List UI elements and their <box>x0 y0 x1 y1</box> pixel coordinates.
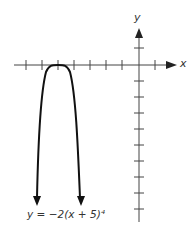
equation-label: y = −2(x + 5)⁴ <box>27 208 105 220</box>
curve-left-arrow-icon <box>33 196 41 206</box>
x-axis-label: x <box>180 57 187 70</box>
y-axis-label: y <box>134 11 141 24</box>
y-axis-arrow-icon <box>135 28 143 38</box>
coordinate-plane <box>0 0 191 236</box>
x-axis-arrow-icon <box>166 61 177 69</box>
curve-right-arrow-icon <box>77 196 85 206</box>
quartic-curve <box>37 65 80 198</box>
